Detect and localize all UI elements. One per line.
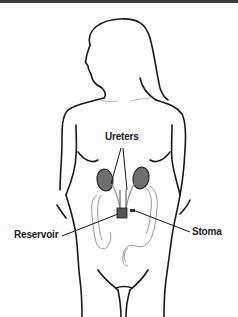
right-shoulder: [156, 100, 186, 195]
face-profile: [85, 45, 105, 98]
right-waist-inner: [180, 200, 190, 214]
stoma-label: Stoma: [192, 226, 222, 237]
crotch-right: [126, 290, 130, 317]
right-side: [164, 195, 180, 317]
left-waist-inner: [57, 205, 66, 218]
hair-back: [140, 78, 156, 100]
right-breast: [150, 152, 170, 162]
ureters-label: Ureters: [105, 131, 139, 142]
right-kidney: [131, 166, 151, 190]
left-side: [66, 195, 82, 317]
illustration-frame: Ureters Reservoir Stoma: [0, 0, 238, 317]
reservoir-label: Reservoir: [14, 229, 58, 240]
crotch-top: [116, 287, 132, 289]
reservoir: [117, 208, 127, 218]
left-breast: [78, 152, 98, 162]
left-inner-arm: [66, 125, 76, 195]
pelvic-right: [130, 270, 148, 290]
right-inner-arm: [172, 125, 180, 195]
crotch-left: [118, 290, 121, 317]
kidneys: [95, 166, 151, 192]
anatomy-illustration: [0, 0, 238, 317]
pelvic-left: [98, 270, 118, 290]
colon: [92, 186, 158, 266]
